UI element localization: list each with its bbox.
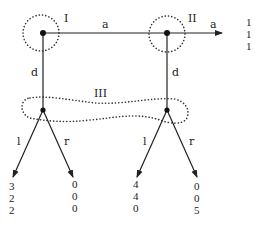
player-label-III: III bbox=[94, 87, 107, 100]
svg-text:0: 0 bbox=[72, 202, 78, 214]
svg-text:1: 1 bbox=[246, 40, 252, 52]
svg-text:2: 2 bbox=[9, 204, 15, 216]
svg-text:1: 1 bbox=[246, 16, 252, 28]
svg-text:0: 0 bbox=[72, 178, 78, 190]
payoff-IIIR-l: 4 4 0 bbox=[133, 178, 139, 214]
edge-label-IIIL-l: l bbox=[17, 135, 21, 148]
svg-text:1: 1 bbox=[246, 28, 252, 40]
edge-label-I-d: d bbox=[31, 66, 38, 79]
svg-text:0: 0 bbox=[72, 190, 78, 202]
edge-label-II-a: a bbox=[210, 18, 217, 31]
payoff-IIIL-l: 3 2 2 bbox=[9, 180, 15, 216]
edge-IIIR-l bbox=[137, 110, 167, 177]
edge-label-IIIR-r: r bbox=[189, 135, 195, 148]
edge-label-IIIL-r: r bbox=[64, 135, 70, 148]
player-label-I: I bbox=[64, 12, 68, 25]
edge-label-IIIR-l: l bbox=[143, 135, 147, 148]
svg-text:5: 5 bbox=[194, 204, 200, 216]
node-II bbox=[164, 30, 170, 36]
payoff-IIIR-r: 0 0 5 bbox=[194, 180, 200, 216]
edge-label-I-a: a bbox=[102, 18, 109, 31]
node-III-left bbox=[40, 107, 45, 112]
payoff-IIIL-r: 0 0 0 bbox=[72, 178, 78, 214]
svg-text:4: 4 bbox=[133, 190, 139, 202]
node-III-right bbox=[164, 107, 169, 112]
svg-text:0: 0 bbox=[194, 180, 200, 192]
player-label-II: II bbox=[188, 12, 197, 25]
svg-text:3: 3 bbox=[9, 180, 15, 192]
edge-label-II-d: d bbox=[172, 66, 179, 79]
svg-text:0: 0 bbox=[194, 192, 200, 204]
svg-text:4: 4 bbox=[133, 178, 139, 190]
game-tree-diagram: I II III a a d d l r l r 1 1 1 3 2 2 0 0… bbox=[0, 0, 263, 228]
svg-text:2: 2 bbox=[9, 192, 15, 204]
svg-text:0: 0 bbox=[133, 202, 139, 214]
node-I bbox=[40, 30, 46, 36]
payoff-II-a: 1 1 1 bbox=[246, 16, 252, 52]
